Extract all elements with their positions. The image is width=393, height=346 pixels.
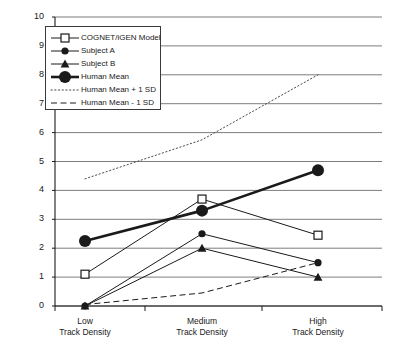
x-tick-label-1: MediumTrack Density bbox=[152, 316, 252, 337]
legend-entry-3: Human Mean bbox=[46, 70, 160, 83]
legend-marker-icon bbox=[50, 84, 80, 96]
y-tick-label-10: 10 bbox=[22, 12, 44, 21]
marker-filled-circle-small bbox=[314, 259, 321, 266]
x-tick-label-line: Low bbox=[35, 316, 135, 327]
legend-label: Human Mean + 1 SD bbox=[81, 85, 156, 94]
chart-container: 012345678910 LowTrack DensityMediumTrack… bbox=[0, 0, 393, 346]
y-tick-label-3: 3 bbox=[22, 214, 44, 223]
marker-filled-circle-small bbox=[61, 47, 68, 54]
legend-entry-1: Subject A bbox=[46, 44, 160, 57]
legend-label: COGNET/iGEN Model bbox=[81, 33, 161, 42]
legend-entry-2: Subject B bbox=[46, 57, 160, 70]
x-tick-label-line: Track Density bbox=[35, 327, 135, 338]
y-tick-label-5: 5 bbox=[22, 157, 44, 166]
legend-label: Subject B bbox=[81, 59, 115, 68]
x-tick-label-line: High bbox=[268, 316, 368, 327]
y-tick-label-8: 8 bbox=[22, 70, 44, 79]
marker-filled-circle-large bbox=[196, 205, 208, 217]
legend-marker-icon bbox=[50, 97, 80, 109]
chart-legend: COGNET/iGEN ModelSubject ASubject BHuman… bbox=[45, 26, 161, 110]
marker-filled-circle-large bbox=[79, 235, 91, 247]
legend-entry-0: COGNET/iGEN Model bbox=[46, 31, 160, 44]
y-tick-label-1: 1 bbox=[22, 272, 44, 281]
legend-label: Subject A bbox=[81, 46, 115, 55]
legend-entry-4: Human Mean + 1 SD bbox=[46, 83, 160, 96]
x-tick-label-2: HighTrack Density bbox=[268, 316, 368, 337]
marker-open-square bbox=[198, 195, 206, 203]
y-tick-label-7: 7 bbox=[22, 99, 44, 108]
series-line-1 bbox=[85, 234, 318, 306]
legend-marker-icon bbox=[50, 71, 80, 83]
y-tick-label-0: 0 bbox=[22, 301, 44, 310]
marker-open-square bbox=[81, 270, 89, 278]
x-tick-marks-group bbox=[55, 306, 382, 311]
y-tick-label-2: 2 bbox=[22, 243, 44, 252]
legend-label: Human Mean bbox=[81, 72, 129, 81]
series-markers-group bbox=[79, 164, 324, 309]
x-tick-label-line: Track Density bbox=[152, 327, 252, 338]
legend-marker-icon bbox=[50, 32, 80, 44]
legend-marker-icon bbox=[50, 45, 80, 57]
x-tick-label-line: Track Density bbox=[268, 327, 368, 338]
x-tick-label-line: Medium bbox=[152, 316, 252, 327]
y-tick-label-9: 9 bbox=[22, 41, 44, 50]
legend-label: Human Mean - 1 SD bbox=[81, 98, 154, 107]
marker-filled-circle-small bbox=[198, 230, 205, 237]
legend-entry-5: Human Mean - 1 SD bbox=[46, 96, 160, 109]
series-line-5 bbox=[85, 263, 318, 305]
x-tick-label-0: LowTrack Density bbox=[35, 316, 135, 337]
y-tick-label-4: 4 bbox=[22, 185, 44, 194]
marker-filled-circle-large bbox=[59, 71, 71, 83]
marker-open-square bbox=[61, 34, 69, 42]
marker-open-square bbox=[314, 231, 322, 239]
legend-marker-icon bbox=[50, 58, 80, 70]
y-tick-label-6: 6 bbox=[22, 128, 44, 137]
marker-filled-circle-large bbox=[312, 164, 324, 176]
